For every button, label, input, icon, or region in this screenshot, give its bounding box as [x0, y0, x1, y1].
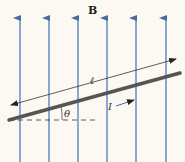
- magnetic-field-diagram: B ℓ θ I: [0, 0, 185, 162]
- current-arrow: [116, 100, 134, 106]
- length-label: ℓ: [90, 75, 94, 86]
- current-label: I: [107, 101, 113, 112]
- field-lines: [20, 18, 166, 162]
- angle-label: θ: [64, 108, 70, 119]
- wire: [9, 73, 180, 120]
- angle-arc: [61, 106, 62, 120]
- field-label: B: [88, 4, 97, 17]
